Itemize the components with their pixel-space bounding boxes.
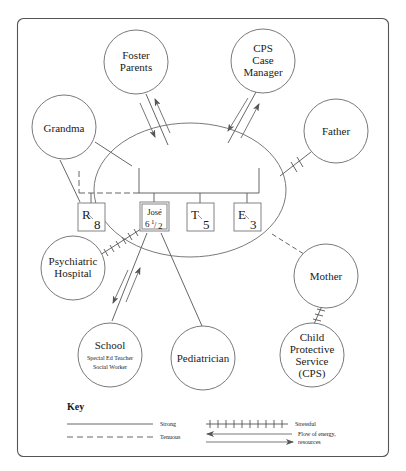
svg-text:Case: Case — [252, 54, 274, 66]
svg-text:Protective: Protective — [290, 343, 335, 355]
svg-text:Parents: Parents — [120, 61, 152, 73]
svg-text:6: 6 — [145, 219, 150, 229]
svg-text:Child: Child — [300, 331, 325, 343]
svg-text:5: 5 — [203, 217, 210, 232]
legend-flow-label-2: resources — [298, 439, 321, 445]
svg-text:3: 3 — [250, 217, 257, 232]
legend-flow-arrows — [206, 434, 293, 442]
node-school: School Special Ed Teacher Social Worker — [78, 323, 142, 387]
node-mother: Mother — [294, 244, 358, 308]
mother-cps-connection — [313, 306, 325, 324]
father-family-connection — [280, 152, 311, 176]
node-grandma: Grandma — [32, 95, 96, 159]
psych-jose-connection — [100, 229, 141, 256]
svg-text:Special Ed Teacher: Special Ed Teacher — [87, 355, 133, 361]
svg-text:Mother: Mother — [310, 270, 343, 282]
svg-text:Psychiatric: Psychiatric — [49, 255, 98, 267]
foster-parents-connection — [140, 94, 170, 145]
legend-title: Key — [67, 401, 84, 412]
family-tree-lines — [79, 168, 259, 203]
pediatrician-jose-connection — [161, 233, 202, 326]
svg-text:Pediatrician: Pediatrician — [177, 352, 230, 364]
svg-text:T: T — [191, 207, 199, 222]
child-box-r: R 8 — [78, 203, 105, 232]
legend-stressful-label: Stressful — [295, 421, 316, 427]
node-pediatrician: Pediatrician — [171, 326, 235, 390]
svg-text:School: School — [95, 339, 126, 351]
legend-flow-label-1: Flow of energy, — [298, 431, 336, 437]
svg-text:Hospital: Hospital — [54, 267, 91, 279]
child-box-e: E 3 — [234, 203, 261, 232]
school-jose-connection — [112, 233, 147, 321]
node-cps-case-manager: CPS Case Manager — [231, 29, 295, 93]
svg-text:CPS: CPS — [253, 42, 273, 54]
svg-text:Manager: Manager — [243, 66, 282, 78]
svg-text:E: E — [238, 207, 246, 222]
node-psychiatric-hospital: Psychiatric Hospital — [41, 236, 105, 300]
legend-strong-label: Strong — [160, 421, 176, 427]
grandma-family-connection — [95, 142, 132, 166]
child-box-t: T 5 — [187, 203, 214, 232]
svg-text:Foster: Foster — [122, 49, 150, 61]
legend: Key Strong Tenuous Stressful Flow of ene… — [67, 401, 336, 445]
node-foster-parents: Foster Parents — [104, 30, 168, 94]
svg-text:Social Worker: Social Worker — [93, 364, 127, 370]
svg-text:8: 8 — [94, 217, 101, 232]
ecomap-diagram: R 8 José 6 1 / 2 T 5 E 3 Foster Parents … — [0, 0, 406, 471]
svg-text:(CPS): (CPS) — [299, 367, 326, 380]
cps-case-manager-connection — [228, 92, 259, 143]
household-ellipse — [94, 123, 286, 257]
node-father: Father — [304, 99, 368, 163]
mother-family-connection — [272, 234, 307, 256]
svg-text:Father: Father — [322, 125, 350, 137]
node-cps: Child Protective Service (CPS) — [280, 323, 344, 387]
svg-text:R: R — [82, 207, 91, 222]
svg-text:2: 2 — [158, 221, 163, 231]
svg-text:Grandma: Grandma — [44, 122, 85, 134]
svg-text:Service: Service — [296, 355, 329, 367]
child-box-jose: José 6 1 / 2 — [140, 202, 169, 231]
legend-tenuous-label: Tenuous — [160, 434, 181, 440]
grandma-r-connection — [60, 160, 80, 202]
legend-stressful-line — [206, 420, 288, 428]
svg-text:José: José — [147, 207, 162, 217]
